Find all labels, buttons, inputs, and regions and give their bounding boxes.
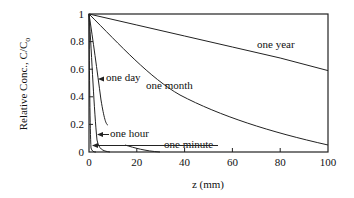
y-axis-title: Relative Conc., C/Co	[17, 38, 32, 131]
x-tick-label: 60	[227, 156, 239, 168]
x-tick-label: 100	[320, 156, 337, 168]
x-tick-label: 80	[275, 156, 287, 168]
annotation-one-month: one month	[146, 79, 193, 91]
y-tick-label: 0	[79, 146, 85, 158]
x-tick-labels: 0 20 40 60 80 100	[86, 156, 337, 168]
x-tick-label: 0	[86, 156, 92, 168]
annotation-one-hour: one hour	[110, 127, 149, 139]
curve-tail	[125, 145, 160, 152]
x-axis-title: z (mm)	[192, 178, 224, 191]
arrow-icon	[97, 132, 103, 137]
y-tick-label: 1	[79, 8, 85, 20]
y-tick-label: 0.4	[70, 90, 84, 102]
y-tick-label: 0.2	[70, 118, 84, 130]
concentration-chart: 0 0.2 0.4 0.6 0.8 1 0 20 40 60 80 100 z …	[0, 0, 354, 198]
annotation-one-day: one day	[106, 71, 141, 83]
x-tick-label: 40	[179, 156, 191, 168]
y-tick-label: 0.8	[70, 35, 84, 47]
y-tick-label: 0.6	[70, 63, 84, 75]
y-axis-title-main: Relative Conc., C/C	[17, 42, 29, 131]
annotation-one-year: one year	[257, 38, 295, 50]
arrow-icon	[92, 143, 98, 148]
y-tick-labels: 0 0.2 0.4 0.6 0.8 1	[70, 8, 84, 158]
y-axis-title-sub: o	[23, 38, 32, 42]
annotation-one-minute: one minute	[164, 138, 213, 150]
x-tick-label: 20	[131, 156, 143, 168]
